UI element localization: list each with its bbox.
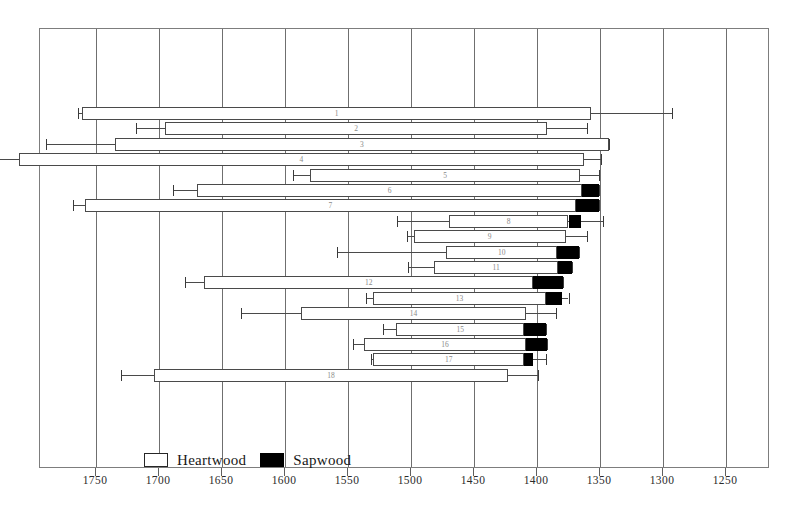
tick-label-1400: 1400 bbox=[524, 474, 549, 486]
bar-row: 2 bbox=[40, 122, 768, 135]
heartwood-bar bbox=[301, 307, 525, 320]
heartwood-bar bbox=[373, 292, 546, 305]
error-bar-cap-start bbox=[366, 293, 367, 304]
error-bar-cap-end bbox=[601, 154, 602, 165]
sapwood-bar bbox=[526, 338, 547, 351]
bar-row: 13 bbox=[40, 292, 768, 305]
error-bar-cap-start bbox=[136, 123, 137, 134]
tick-label-1250: 1250 bbox=[713, 474, 738, 486]
error-bar-cap-start bbox=[397, 216, 398, 227]
bar-row: 14 bbox=[40, 307, 768, 320]
error-bar-cap-start bbox=[78, 108, 79, 119]
error-bar-cap-end bbox=[546, 324, 547, 335]
error-bar-cap-start bbox=[185, 277, 186, 288]
sapwood-swatch-icon bbox=[260, 453, 284, 467]
heartwood-bar bbox=[449, 215, 569, 228]
error-bar-cap-end bbox=[572, 262, 573, 273]
legend-entry-heartwood: Heartwood bbox=[144, 452, 246, 469]
error-bar-cap-start bbox=[371, 354, 372, 365]
error-bar-cap-end bbox=[587, 231, 588, 242]
tick-label-1550: 1550 bbox=[335, 474, 360, 486]
tick-label-1600: 1600 bbox=[272, 474, 297, 486]
bar-row: 1 bbox=[40, 107, 768, 120]
legend-label-sapwood: Sapwood bbox=[293, 452, 351, 469]
sapwood-bar bbox=[576, 199, 599, 212]
error-bar-cap-end bbox=[563, 277, 564, 288]
sapwood-bar bbox=[524, 323, 545, 336]
error-bar-cap-start bbox=[408, 262, 409, 273]
bar-row: 10 bbox=[40, 246, 768, 259]
sapwood-bar bbox=[558, 261, 572, 274]
bar-row: 5 bbox=[40, 169, 768, 182]
heartwood-bar bbox=[82, 107, 591, 120]
sapwood-bar bbox=[524, 353, 533, 366]
error-bar-cap-start bbox=[407, 231, 408, 242]
bar-row: 15 bbox=[40, 323, 768, 336]
bar-row: 4 bbox=[40, 153, 768, 166]
bar-row: 11 bbox=[40, 261, 768, 274]
sapwood-bar bbox=[546, 292, 562, 305]
heartwood-bar bbox=[373, 353, 524, 366]
error-bar-cap-end bbox=[569, 293, 570, 304]
heartwood-bar bbox=[446, 246, 557, 259]
heartwood-bar bbox=[310, 169, 580, 182]
error-bar-cap-start bbox=[121, 370, 122, 381]
error-bar-cap-end bbox=[672, 108, 673, 119]
chart-legend: Heartwood Sapwood bbox=[144, 449, 351, 471]
heartwood-bar bbox=[85, 199, 576, 212]
error-bar-cap-start bbox=[73, 200, 74, 211]
bar-row: 6 bbox=[40, 184, 768, 197]
tick-label-1300: 1300 bbox=[650, 474, 675, 486]
tick-label-1350: 1350 bbox=[587, 474, 612, 486]
error-bar-cap-end bbox=[546, 354, 547, 365]
tick-label-1700: 1700 bbox=[146, 474, 171, 486]
error-bar-cap-end bbox=[538, 370, 539, 381]
error-bar-cap-end bbox=[609, 139, 610, 150]
sapwood-bar bbox=[582, 184, 598, 197]
error-bar-cap-end bbox=[599, 200, 600, 211]
error-bar-cap-start bbox=[293, 170, 294, 181]
sapwood-bar bbox=[557, 246, 578, 259]
bar-row: 3 bbox=[40, 138, 768, 151]
legend-label-heartwood: Heartwood bbox=[177, 452, 246, 469]
x-axis-labels: 1750170016501600155015001450140013501300… bbox=[0, 474, 809, 496]
bar-row: 7 bbox=[40, 199, 768, 212]
sapwood-bar bbox=[569, 215, 582, 228]
error-bar-cap-start bbox=[353, 339, 354, 350]
legend-entry-sapwood: Sapwood bbox=[260, 452, 351, 469]
error-bar-cap-end bbox=[599, 170, 600, 181]
bar-row: 9 bbox=[40, 230, 768, 243]
heartwood-swatch-icon bbox=[144, 453, 168, 467]
chart-canvas: 123456789101112131415161718 Heartwood Sa… bbox=[0, 0, 809, 524]
heartwood-bar bbox=[364, 338, 525, 351]
error-bar-cap-start bbox=[383, 324, 384, 335]
bar-row: 18 bbox=[40, 369, 768, 382]
bar-row: 8 bbox=[40, 215, 768, 228]
heartwood-bar bbox=[414, 230, 566, 243]
error-bar-cap-start bbox=[173, 185, 174, 196]
error-bar-cap-start bbox=[241, 308, 242, 319]
tick-label-1450: 1450 bbox=[461, 474, 486, 486]
error-bar-cap-end bbox=[587, 123, 588, 134]
heartwood-bar bbox=[434, 261, 559, 274]
bar-row: 12 bbox=[40, 276, 768, 289]
plot-frame: 123456789101112131415161718 Heartwood Sa… bbox=[39, 28, 769, 468]
heartwood-bar bbox=[197, 184, 583, 197]
heartwood-bar bbox=[19, 153, 583, 166]
error-bar-cap-end bbox=[556, 308, 557, 319]
error-bar-cap-end bbox=[603, 216, 604, 227]
tick-label-1750: 1750 bbox=[83, 474, 108, 486]
error-bar-cap-end bbox=[547, 339, 548, 350]
heartwood-bar bbox=[204, 276, 533, 289]
heartwood-bar bbox=[165, 122, 547, 135]
error-bar-cap-start bbox=[46, 139, 47, 150]
heartwood-bar bbox=[154, 369, 508, 382]
error-bar-cap-start bbox=[337, 247, 338, 258]
sapwood-bar bbox=[533, 276, 563, 289]
bar-row: 17 bbox=[40, 353, 768, 366]
tick-label-1650: 1650 bbox=[209, 474, 234, 486]
heartwood-bar bbox=[115, 138, 609, 151]
heartwood-bar bbox=[396, 323, 525, 336]
bar-row: 16 bbox=[40, 338, 768, 351]
error-bar-cap-end bbox=[579, 247, 580, 258]
